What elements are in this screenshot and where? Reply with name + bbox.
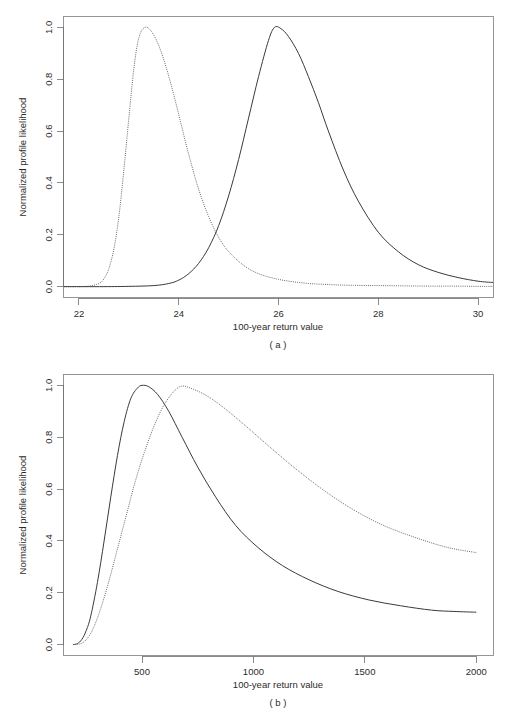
panel-b-y-ticks: 0.00.20.40.60.81.0 [44,379,64,651]
y-tick-label: 1.0 [44,379,55,392]
y-tick-label: 0.0 [44,638,55,651]
x-tick-label: 22 [74,308,85,319]
likelihood-curve-dotted [64,27,493,287]
x-tick-label: 1500 [354,666,375,677]
panel-a-svg: 0.00.20.40.60.81.0 2224262830 100-year r… [0,0,509,360]
panel-a-ylabel: Normalized profile likelihood [17,98,28,217]
x-tick-label: 500 [134,666,150,677]
y-tick-label: 0.8 [44,431,55,444]
panel-b: 0.00.20.40.60.81.0 500100015002000 100-y… [0,358,509,719]
y-tick-label: 1.0 [44,21,55,34]
panel-a-caption: ( a ) [270,339,287,350]
likelihood-curve-dotted [77,386,476,645]
likelihood-curve-solid [73,385,476,644]
panel-a: 0.00.20.40.60.81.0 2224262830 100-year r… [0,0,509,360]
y-tick-label: 0.2 [44,586,55,599]
y-tick-label: 0.6 [44,124,55,137]
panel-a-x-ticks: 2224262830 [74,298,484,319]
figure-profile-likelihood: 0.00.20.40.60.81.0 2224262830 100-year r… [0,0,509,719]
panel-b-ylabel: Normalized profile likelihood [17,456,28,575]
x-tick-label: 28 [373,308,384,319]
panel-b-caption: ( b ) [270,697,287,708]
panel-b-curves [73,385,476,644]
panel-a-xlabel: 100-year return value [233,321,323,332]
x-tick-label: 30 [473,308,484,319]
panel-a-curves [64,27,493,287]
x-tick-label: 26 [273,308,284,319]
x-tick-label: 1000 [243,666,264,677]
panel-a-frame [64,17,494,298]
likelihood-curve-solid [64,27,493,287]
x-tick-label: 24 [173,308,184,319]
panel-b-xlabel: 100-year return value [233,679,323,690]
panel-b-x-ticks: 500100015002000 [134,656,487,677]
y-tick-label: 0.2 [44,228,55,241]
x-tick-label: 2000 [466,666,487,677]
y-tick-label: 0.0 [44,280,55,293]
panel-b-svg: 0.00.20.40.60.81.0 500100015002000 100-y… [0,358,509,719]
y-tick-label: 0.6 [44,482,55,495]
y-tick-label: 0.8 [44,73,55,86]
panel-a-y-ticks: 0.00.20.40.60.81.0 [44,21,64,293]
y-tick-label: 0.4 [44,534,55,547]
y-tick-label: 0.4 [44,176,55,189]
panel-b-frame [64,375,494,656]
